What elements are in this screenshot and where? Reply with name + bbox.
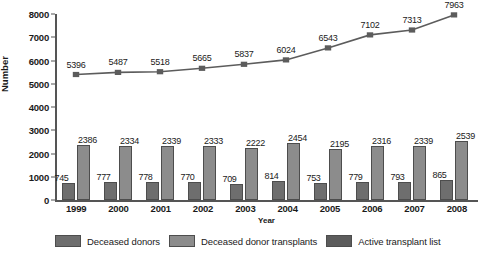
bar-deceased-donor-transplants: 2454 <box>287 143 300 200</box>
bar-groups: 7452386777233477823397702333709222281424… <box>55 14 475 200</box>
bar-value-label: 2195 <box>330 139 349 149</box>
bar-deceased-donors: 778 <box>146 182 159 200</box>
bar-group: 7782339 <box>139 14 181 200</box>
bar-group: 7932339 <box>391 14 433 200</box>
bar-deceased-donors: 753 <box>314 183 327 201</box>
bar-value-label: 2333 <box>204 136 223 146</box>
legend-label: Active transplant list <box>358 236 440 247</box>
bar-deceased-donor-transplants: 2386 <box>77 145 90 200</box>
bar-deceased-donor-transplants: 2316 <box>371 146 384 200</box>
bar-value-label: 709 <box>222 174 236 184</box>
bar-deceased-donors: 709 <box>230 184 243 200</box>
bar-group: 7452386 <box>55 14 97 200</box>
legend-item[interactable]: Deceased donors <box>55 235 160 247</box>
chart-legend: Deceased donorsDeceased donor transplant… <box>55 235 484 247</box>
bar-deceased-donors: 779 <box>356 182 369 200</box>
bar-deceased-donors: 865 <box>440 180 453 200</box>
bar-group: 7792316 <box>349 14 391 200</box>
y-axis-title: Number <box>0 56 10 92</box>
bar-group: 8142454 <box>265 14 307 200</box>
bar-value-label: 793 <box>390 172 404 182</box>
bar-value-label: 2339 <box>162 136 181 146</box>
bar-deceased-donor-transplants: 2195 <box>329 149 342 200</box>
legend-label: Deceased donors <box>87 236 160 247</box>
legend-item[interactable]: Deceased donor transplants <box>169 235 317 247</box>
plot-area: 800070006000500040003000200010000 745238… <box>55 14 475 200</box>
bar-value-label: 779 <box>348 172 362 182</box>
bar-deceased-donor-transplants: 2334 <box>119 146 132 200</box>
bar-value-label: 2339 <box>414 136 433 146</box>
bar-value-label: 770 <box>180 172 194 182</box>
bar-group: 8652539 <box>433 14 475 200</box>
bar-deceased-donors: 745 <box>62 183 75 200</box>
bar-deceased-donors: 814 <box>272 181 285 200</box>
bar-group: 7702333 <box>181 14 223 200</box>
bar-value-label: 2386 <box>78 135 97 145</box>
bar-group: 7772334 <box>97 14 139 200</box>
bar-deceased-donor-transplants: 2339 <box>161 146 174 200</box>
bar-group: 7532195 <box>307 14 349 200</box>
bar-deceased-donors: 770 <box>188 182 201 200</box>
bar-deceased-donor-transplants: 2333 <box>203 146 216 200</box>
bar-deceased-donors: 777 <box>104 182 117 200</box>
legend-item[interactable]: Active transplant list <box>326 235 440 247</box>
bar-value-label: 2334 <box>120 136 139 146</box>
bar-value-label: 2539 <box>456 131 475 141</box>
bar-group: 7092222 <box>223 14 265 200</box>
bar-deceased-donor-transplants: 2539 <box>455 141 468 200</box>
bar-value-label: 2316 <box>372 136 391 146</box>
legend-swatch-icon <box>55 235 81 247</box>
bar-value-label: 777 <box>96 172 110 182</box>
legend-swatch-icon <box>326 235 352 247</box>
bar-value-label: 814 <box>264 171 278 181</box>
bar-value-label: 745 <box>54 173 68 183</box>
chart-container: Number 800070006000500040003000200010000… <box>0 0 484 261</box>
bar-value-label: 865 <box>432 170 446 180</box>
bar-value-label: 2454 <box>288 133 307 143</box>
bar-deceased-donors: 793 <box>398 182 411 200</box>
x-axis-title: Year <box>55 216 478 225</box>
bar-value-label: 753 <box>306 173 320 183</box>
bar-deceased-donor-transplants: 2339 <box>413 146 426 200</box>
bar-deceased-donor-transplants: 2222 <box>245 148 258 200</box>
line-value-label: 7963 <box>445 0 464 10</box>
bar-value-label: 778 <box>138 172 152 182</box>
legend-label: Deceased donor transplants <box>201 236 317 247</box>
x-axis-line <box>55 200 478 202</box>
legend-swatch-icon <box>169 235 195 247</box>
bar-value-label: 2222 <box>246 138 265 148</box>
